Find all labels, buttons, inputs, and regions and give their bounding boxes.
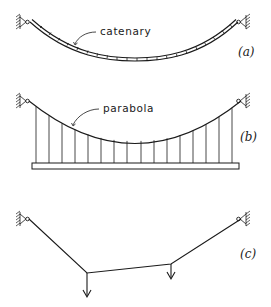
panel-a-label: (a) [238, 45, 255, 59]
panel-c: (c) [16, 211, 256, 297]
point-load-arrow-icon [167, 264, 175, 279]
panel-a: catenary (a) [16, 14, 255, 61]
panel-b-label: (b) [240, 130, 257, 144]
pinned-support-left-icon [16, 93, 29, 108]
pinned-support-left-icon [16, 14, 29, 29]
point-load-arrow-icon [83, 273, 91, 297]
panel-b: parabola (b) [16, 93, 257, 169]
parabola-leader-line [73, 109, 99, 125]
pinned-support-right-icon [237, 211, 250, 226]
loaded-cable [29, 219, 241, 273]
parabola-label: parabola [103, 102, 154, 114]
cable-structures-diagram: catenary (a) [0, 0, 271, 307]
pinned-support-right-icon [237, 93, 250, 108]
panel-c-label: (c) [240, 247, 256, 261]
vertical-hangers [36, 107, 232, 163]
catenary-label: catenary [100, 25, 151, 37]
pinned-support-right-icon [237, 14, 250, 29]
pinned-support-left-icon [16, 211, 29, 226]
catenary-leader-line [75, 32, 96, 44]
bridge-deck [32, 163, 239, 169]
